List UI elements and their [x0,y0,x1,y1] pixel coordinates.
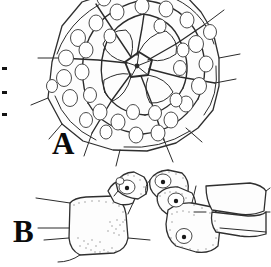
periproct-center [135,64,140,69]
tubercle-b5 [116,178,124,185]
left-margin-tick-marks [2,67,7,116]
tubercle-b2 [155,174,171,188]
figure-illustration [0,0,271,267]
tubercle-b4 [176,229,192,244]
tick-mark-2 [2,91,7,94]
panel-label-b: B [13,216,34,247]
figure-plate: A B [0,0,271,267]
panel-label-a: A [52,128,74,159]
tick-mark-3 [2,113,7,116]
panel-b-illustration [36,170,270,262]
plate-far-right-lower [212,212,267,237]
tubercle-b3 [168,193,184,207]
tick-mark-1 [2,67,7,70]
plate-far-right-upper [206,183,266,215]
plate-left-large [69,196,128,255]
